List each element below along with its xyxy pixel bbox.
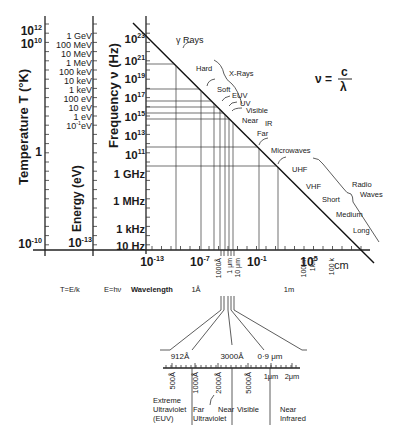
frequency-tick-label: 1013 [125, 129, 146, 142]
wavelength-marker-label: 1000Å [214, 258, 222, 279]
wavelength-unit: cm [334, 259, 349, 271]
band-label-vhf: VHF [306, 182, 321, 191]
inset-region-label: Ultraviolet [193, 414, 227, 423]
uhf-brace [278, 157, 286, 164]
inset-region-label: Extreme [153, 396, 181, 405]
inset-region-label: Near [218, 405, 235, 414]
band-label-hard: Hard [196, 64, 212, 73]
band-label-microwaves: Microwaves [271, 146, 311, 155]
microwave-brace [259, 138, 268, 145]
temperature-tick-label: 10-10 [18, 236, 42, 251]
axis-labels: 10121010110-101 GeV100 MeV10 MeV1 MeV100… [18, 23, 335, 294]
band-label-uhf: UHF [292, 165, 308, 174]
formula-lhs: ν = [315, 72, 332, 86]
nu-lambda-diagonal [133, 23, 374, 263]
band-label-visible: Visible [246, 106, 268, 115]
inset-region-label: Ultraviolet [153, 405, 187, 414]
wavelength-tick-label: 10-7 [190, 254, 210, 269]
euv-brace [222, 96, 230, 101]
inset-scale-label: 2000Å [214, 372, 223, 394]
energy-tick-label: 10-1eV [66, 120, 92, 131]
band-label-short: Short [322, 195, 341, 204]
band-label-rays: γ Rays [176, 35, 204, 45]
frequency-axis-title: Frequency ν (Hz) [106, 43, 121, 148]
inset-boundary-label: 912Å [171, 352, 190, 361]
band-label-ir: IR [265, 119, 273, 128]
frequency-tick-label: 1 MHz [113, 195, 145, 207]
wavelength-marker-label: 1m [284, 285, 294, 294]
relation-temperature: T=E/k [60, 285, 80, 294]
frequency-tick-label: 1023 [125, 32, 146, 45]
band-label-soft: Soft [217, 85, 231, 94]
inset-region-label: Near [280, 405, 297, 414]
band-labels: γ RaysHardX-RaysSoftEUVUVVisibleNearIRFa… [176, 35, 383, 235]
frequency-tick-label: 1015 [125, 110, 146, 123]
band-label-xrays: X-Rays [229, 69, 254, 78]
soft-brace [207, 79, 215, 86]
inset-region-label: Far [193, 405, 205, 414]
wavelength-marker-label: 1Å [191, 285, 200, 294]
inset-scale-label: 5000Å [244, 372, 253, 394]
inset-region-label: Infrared [280, 414, 306, 423]
wavelength-marker-label: 100 m [300, 258, 307, 278]
inset-region-label: Visible [237, 405, 259, 414]
temperature-tick-label: 1 [35, 145, 42, 159]
inset-scale-label: 2μm [285, 372, 300, 381]
relation-energy: E=hν [104, 285, 122, 294]
far-near-brace [210, 395, 214, 405]
frequency-tick-label: 1017 [125, 91, 146, 104]
inset-boundary-label: 0·9 μm [257, 352, 282, 361]
inset-boundary-label: 3000Å [220, 352, 244, 361]
wavelength-marker-label: 10 μm [234, 258, 242, 278]
band-label-near: Near [242, 116, 259, 125]
band-gridlines [146, 64, 278, 256]
formula-denominator: λ [340, 80, 347, 94]
uv-brace [229, 102, 237, 106]
em-spectrum-diagram: Temperature T (°K) Energy (eV) Frequency… [0, 0, 405, 437]
wavelength-tick-label: 10-13 [140, 254, 164, 269]
wavelength-label: Wavelength [131, 285, 173, 294]
frequency-tick-label: 10 Hz [116, 240, 145, 252]
frequency-tick-label: 1 kHz [116, 223, 145, 235]
formula: ν = c λ [315, 65, 352, 94]
visible-brace [232, 108, 242, 111]
inset-connectors [160, 296, 307, 350]
frequency-tick-label: 1 GHz [114, 168, 146, 180]
energy-tick-label: 10-13 [68, 235, 92, 250]
wavelength-marker-label: 1 μm [226, 258, 234, 274]
frequency-tick-label: 1019 [125, 72, 146, 85]
temperature-tick-label: 1010 [21, 36, 42, 51]
energy-axis-title: Energy (eV) [70, 165, 84, 232]
inset-scale-label: 1μm [264, 372, 279, 381]
band-label-radio: Radio [352, 180, 372, 189]
inset-scale-label: 500Å [168, 372, 177, 390]
inset-scale-label: 1000Å [191, 372, 200, 394]
frequency-tick-label: 1011 [125, 148, 145, 161]
formula-numerator: c [341, 65, 348, 79]
band-label-long: Long [353, 226, 370, 235]
wavelength-tick-label: 10-1 [247, 254, 267, 269]
frequency-tick-label: 1021 [125, 54, 146, 67]
visible-region-inset: 912Å3000Å0·9 μm500Å1000Å2000Å5000Å1μm2μm… [153, 352, 306, 425]
wavelength-marker-label: 1km [309, 258, 316, 271]
inset-region-label: (EUV) [153, 414, 174, 423]
band-label-waves: Waves [360, 190, 383, 199]
temperature-axis-title: Temperature T (°K) [16, 69, 31, 185]
band-label-far: Far [257, 129, 269, 138]
